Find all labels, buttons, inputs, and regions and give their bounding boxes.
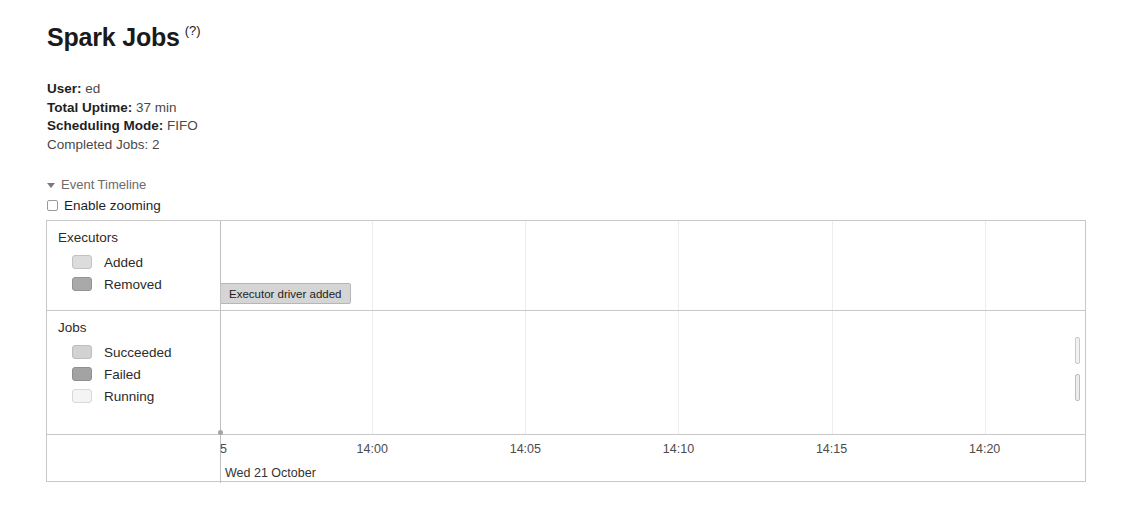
summary-row: User: ed [47, 80, 198, 99]
legend-label-running: Running [104, 389, 154, 404]
jobs-lane-title: Jobs [58, 320, 220, 335]
gridline [678, 311, 679, 434]
summary-label: User: [47, 81, 82, 96]
gridline [985, 311, 986, 434]
enable-zooming-checkbox[interactable] [47, 200, 58, 211]
gridline [525, 221, 526, 310]
jobs-plot-area [220, 311, 1085, 434]
timeline-lane-jobs: Jobs Succeeded Failed Running [47, 311, 1085, 435]
axis-tick-label: 14:20 [969, 442, 1000, 456]
executors-plot-area: Executor driver added [220, 221, 1085, 310]
gridline [832, 221, 833, 310]
legend-item-running: Running [58, 385, 220, 407]
swatch-succeeded [72, 345, 92, 359]
summary-value: ed [82, 81, 101, 96]
summary-value: 2 [148, 137, 159, 152]
legend-item-added: Added [58, 251, 220, 273]
axis-tick-label: 14:10 [663, 442, 694, 456]
legend-item-succeeded: Succeeded [58, 341, 220, 363]
axis-tick-label: 14:05 [510, 442, 541, 456]
axis-tick-label: 5 [220, 442, 227, 456]
summary-label: Total Uptime: [47, 100, 132, 115]
page-title: Spark Jobs [47, 22, 180, 52]
legend-label-succeeded: Succeeded [104, 345, 172, 360]
swatch-failed [72, 367, 92, 381]
legend-label-added: Added [104, 255, 143, 270]
legend-item-failed: Failed [58, 363, 220, 385]
gridline [832, 311, 833, 434]
timeline-lanes: Executor driver added Executors Added Re… [47, 221, 1085, 435]
axis-tick-label: 14:00 [357, 442, 388, 456]
axis-date-label: Wed 21 October [225, 466, 316, 480]
summary-row: Completed Jobs: 2 [47, 136, 198, 155]
gridline [678, 221, 679, 310]
summary-value: FIFO [163, 118, 198, 133]
timeline-lane-executors: Executor driver added Executors Added Re… [47, 221, 1085, 311]
executors-lane-title: Executors [58, 230, 220, 245]
gridline [372, 311, 373, 434]
swatch-removed [72, 277, 92, 291]
legend-label-removed: Removed [104, 277, 162, 292]
swatch-running [72, 389, 92, 403]
summary-row: Total Uptime: 37 min [47, 99, 198, 118]
gridline [525, 311, 526, 434]
legend-label-failed: Failed [104, 367, 141, 382]
axis-origin-marker [218, 430, 223, 435]
swatch-added [72, 255, 92, 269]
timeline-axis-ticks: Wed 21 October 514:0014:0514:1014:1514:2… [220, 435, 1085, 481]
page-header: Spark Jobs (?) [47, 22, 201, 52]
timeline-axis: Wed 21 October 514:0014:0514:1014:1514:2… [47, 435, 1085, 481]
event-timeline-toggle[interactable]: Event Timeline [47, 177, 146, 192]
summary-label: Completed Jobs: [47, 137, 148, 152]
summary-row: Scheduling Mode: FIFO [47, 117, 198, 136]
jobs-legend: Jobs Succeeded Failed Running [47, 311, 220, 434]
summary-label: Scheduling Mode: [47, 118, 163, 133]
event-timeline-chart[interactable]: Executor driver added Executors Added Re… [46, 220, 1086, 482]
job-summary-list: User: edTotal Uptime: 37 minScheduling M… [47, 80, 198, 154]
summary-value: 37 min [132, 100, 176, 115]
job-bar[interactable] [1075, 374, 1080, 401]
axis-tick-label: 14:15 [816, 442, 847, 456]
enable-zooming-row[interactable]: Enable zooming [47, 198, 161, 213]
event-executor-driver-added[interactable]: Executor driver added [220, 283, 351, 304]
event-timeline-label: Event Timeline [61, 177, 146, 192]
gridline [985, 221, 986, 310]
enable-zooming-label: Enable zooming [64, 198, 161, 213]
caret-down-icon [47, 183, 55, 188]
legend-item-removed: Removed [58, 273, 220, 295]
job-bar[interactable] [1075, 337, 1080, 364]
gridline [372, 221, 373, 310]
help-link[interactable]: (?) [185, 24, 201, 38]
executors-legend: Executors Added Removed [47, 221, 220, 310]
